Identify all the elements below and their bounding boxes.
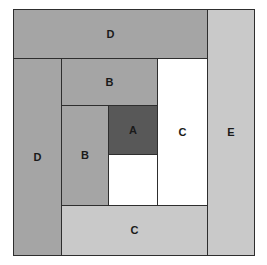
rect-label-d-left: D — [33, 152, 41, 163]
rect-label-d-top: D — [106, 29, 114, 40]
rect-label-c-bottom: C — [130, 225, 138, 236]
rect-label-a-center: A — [129, 125, 137, 136]
rect-white-mid — [108, 154, 158, 206]
rect-c-bottom: C — [61, 205, 208, 256]
rect-label-c-right: C — [178, 127, 186, 138]
rect-label-e-right: E — [227, 127, 235, 138]
rect-b-left: B — [61, 105, 109, 206]
rect-label-b-top: B — [105, 77, 113, 88]
rect-d-top: D — [13, 9, 208, 59]
rect-e-right: E — [207, 9, 255, 256]
rect-d-left: D — [13, 58, 62, 256]
rect-label-b-left: B — [81, 150, 89, 161]
rect-c-right: C — [157, 58, 208, 206]
diagram-canvas: DEDBCBAC — [0, 0, 267, 265]
rect-a-center: A — [108, 105, 158, 155]
rect-b-top: B — [61, 58, 158, 106]
